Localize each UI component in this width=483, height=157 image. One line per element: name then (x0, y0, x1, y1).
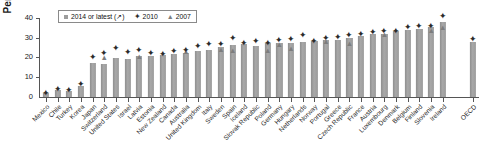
x-tick-mark (151, 98, 152, 102)
bar-group: ▲✦ (425, 8, 437, 97)
y-tick-label: 20 (11, 53, 33, 61)
bar (276, 43, 282, 97)
x-axis-labels: MexicoChileTurkeyKoreaJapanSwitzerlandUn… (40, 102, 483, 157)
bar (393, 31, 399, 97)
y-tick-label: 30 (11, 34, 33, 42)
x-tick-mark (314, 98, 315, 102)
bar-group: ▲✦ (262, 8, 274, 97)
x-tick-mark (279, 98, 280, 102)
x-tick-mark (326, 98, 327, 102)
x-tick-mark (373, 98, 374, 102)
y-tick-label: 0 (11, 93, 33, 101)
x-tick-mark (473, 98, 474, 102)
bar-group: ▲✦ (215, 8, 227, 97)
bar-group: ✦ (309, 8, 321, 97)
bar (470, 42, 476, 97)
x-tick-mark (221, 98, 222, 102)
bar (124, 59, 130, 97)
x-tick-mark (361, 98, 362, 102)
x-tick-mark (81, 98, 82, 102)
legend-label: 2010 (143, 13, 158, 21)
bar (440, 22, 446, 97)
legend-triangle-icon: ▲ (167, 14, 174, 20)
bar-group: ✦ (203, 8, 215, 97)
bar (335, 40, 341, 97)
x-tick-mark (431, 98, 432, 102)
bar-group: ✦ (355, 8, 367, 97)
chart-legend: 2014 or latest (↗)✦2010▲2007 (58, 10, 197, 23)
x-tick-mark (384, 98, 385, 102)
legend-label: 2007 (176, 13, 191, 21)
chart-figure: Per cent 010203040 ✦✦✦✦✦▲✦✦✦▲✦✦✦✦▲✦✦✦▲✦▲… (0, 0, 483, 157)
bar-group: ✦ (40, 8, 52, 97)
bar (206, 50, 212, 97)
x-tick-mark (174, 98, 175, 102)
x-tick-mark (349, 98, 350, 102)
bar (241, 44, 247, 97)
bar (148, 56, 154, 97)
bar (381, 34, 387, 97)
x-tick-mark (93, 98, 94, 102)
x-tick-mark (46, 98, 47, 102)
legend-entry: 2014 or latest (↗) (64, 13, 125, 21)
bar-group: ✦ (414, 8, 426, 97)
bar (405, 30, 411, 97)
bar-group: ✦ (297, 8, 309, 97)
legend-entry: ▲2007 (167, 13, 191, 21)
x-tick-mark (209, 98, 210, 102)
bar-group: ▲✦ (320, 8, 332, 97)
bar (323, 40, 329, 97)
x-tick-mark (163, 98, 164, 102)
x-tick-mark (408, 98, 409, 102)
legend-diamond-icon: ✦ (134, 14, 141, 20)
x-tick-mark (58, 98, 59, 102)
bar-group: ✦ (390, 8, 402, 97)
legend-bar-swatch-icon (64, 15, 68, 19)
x-tick-mark (128, 98, 129, 102)
x-tick-mark (104, 98, 105, 102)
bar (311, 41, 317, 97)
x-tick-mark (443, 98, 444, 102)
bar (253, 46, 259, 97)
bar-group: ▲✦ (227, 8, 239, 97)
bar (195, 51, 201, 97)
legend-entry: ✦2010 (134, 13, 158, 21)
y-tick-label: 10 (11, 73, 33, 81)
bar-group: ▲✦ (274, 8, 286, 97)
bar-group: ✦ (367, 8, 379, 97)
x-tick-mark (244, 98, 245, 102)
x-tick-mark (198, 98, 199, 102)
bar (101, 64, 107, 97)
x-tick-mark (291, 98, 292, 102)
bar-group: ✦ (238, 8, 250, 97)
x-tick-mark (186, 98, 187, 102)
bar-group: ✦ (402, 8, 414, 97)
y-tick-label: 40 (11, 14, 33, 22)
bar (218, 47, 224, 97)
bar-group: ✦ (332, 8, 344, 97)
bar (159, 55, 165, 97)
bar (113, 58, 119, 97)
x-tick-mark (139, 98, 140, 102)
x-tick-mark (69, 98, 70, 102)
x-tick-mark (256, 98, 257, 102)
legend-label: 2014 or latest (↗) (71, 13, 125, 21)
bar (416, 29, 422, 97)
bar-group: ✦ (467, 8, 479, 97)
x-tick-mark (116, 98, 117, 102)
bar-group: ▲✦ (379, 8, 391, 97)
bar-group: ▲✦ (437, 8, 449, 97)
x-tick-mark (396, 98, 397, 102)
bar-group: ▲✦ (285, 8, 297, 97)
bar (136, 56, 142, 97)
x-tick-mark (268, 98, 269, 102)
bar (89, 63, 95, 97)
bar (428, 27, 434, 97)
bar-group: ▲✦ (344, 8, 356, 97)
x-tick-mark (419, 98, 420, 102)
bar (370, 34, 376, 97)
x-tick-mark (338, 98, 339, 102)
bar (171, 54, 177, 98)
bar (183, 53, 189, 98)
bar (358, 36, 364, 97)
